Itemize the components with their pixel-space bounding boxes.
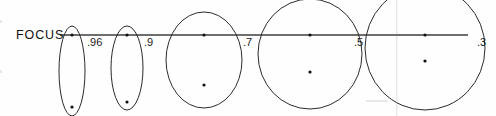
ellipse-outline: [59, 26, 85, 116]
focus-axis-label: FOCUS: [16, 28, 64, 42]
lower-focus-dot: [125, 100, 128, 103]
lower-focus-dot: [70, 105, 73, 108]
lower-focus-dot: [202, 83, 205, 86]
eccentricity-label: .9: [144, 36, 153, 48]
ellipse-group: .96: [59, 26, 102, 116]
upper-focus-dot: [70, 33, 73, 36]
eccentricity-label: .96: [87, 36, 102, 48]
ellipse-outline: [365, 0, 485, 110]
ellipse-group: .5: [258, 0, 363, 109]
ellipse-outline: [258, 0, 362, 109]
upper-focus-dot: [125, 33, 128, 36]
ellipse-group: .3: [365, 0, 486, 110]
upper-focus-dot: [423, 33, 426, 36]
ellipse-group: .9: [111, 26, 153, 110]
eccentricity-label: .7: [243, 36, 252, 48]
ellipse-group: .7: [166, 12, 252, 108]
eccentricity-label: .3: [477, 36, 486, 48]
diagram-canvas: FOCUS .96 .9 .7 .5: [0, 0, 496, 116]
ellipse-outline: [111, 26, 143, 110]
lower-focus-dot: [423, 59, 426, 62]
eccentricity-diagram: FOCUS .96 .9 .7 .5: [0, 0, 496, 116]
lower-focus-dot: [308, 70, 311, 73]
ellipse-outline: [166, 12, 242, 108]
eccentricity-label: .5: [354, 36, 363, 48]
upper-focus-dot: [308, 33, 311, 36]
upper-focus-dot: [202, 33, 205, 36]
